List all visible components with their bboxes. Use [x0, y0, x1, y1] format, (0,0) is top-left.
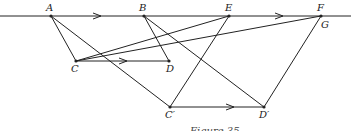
segment-cf	[76, 16, 321, 61]
point-label-f: F	[317, 3, 324, 13]
segment-c2e	[170, 16, 229, 107]
point-label-b: B	[139, 3, 146, 13]
point-label-g: G	[321, 20, 329, 30]
point-label-d-prime: D′	[259, 110, 269, 120]
segment-bd	[144, 16, 169, 61]
figure-caption: Figure 35	[190, 126, 240, 131]
segment-d2g	[264, 16, 321, 107]
point-label-c: C	[71, 64, 79, 74]
point-label-a: A	[46, 3, 53, 13]
segment-ac	[51, 16, 76, 61]
geometry-diagram	[0, 0, 351, 131]
point-label-d: D	[166, 64, 174, 74]
point-label-c-prime: C′	[165, 110, 175, 120]
point-label-e: E	[225, 3, 232, 13]
